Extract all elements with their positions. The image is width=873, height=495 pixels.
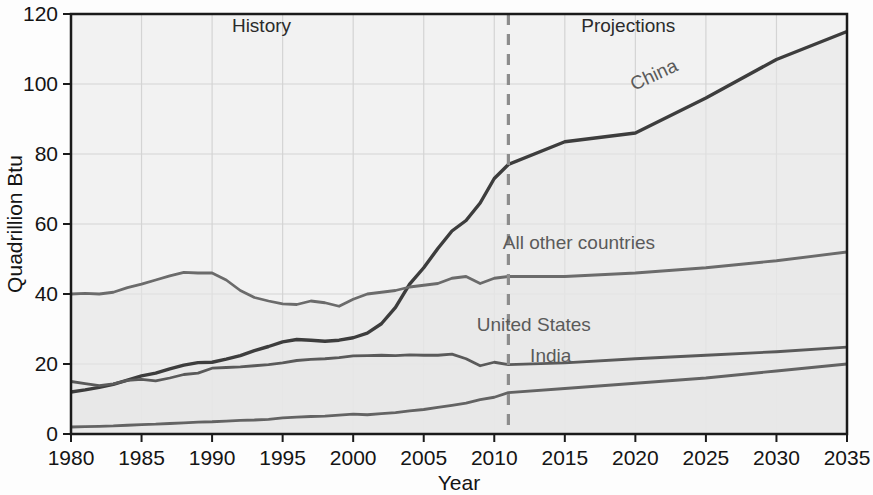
series-label-india: India	[530, 345, 572, 366]
y-tick-label: 20	[35, 352, 58, 375]
series-label-united-states: United States	[477, 314, 591, 335]
x-tick-label: 2035	[824, 446, 871, 469]
x-tick-label: 2015	[541, 446, 588, 469]
y-tick-label: 40	[35, 282, 58, 305]
x-axis-title: Year	[438, 471, 480, 494]
x-tick-label: 1980	[48, 446, 95, 469]
y-tick-label: 100	[23, 72, 58, 95]
chart-figure: 020406080100120 198019851990199520002005…	[0, 0, 873, 495]
series-label-all-other-countries: All other countries	[503, 232, 655, 253]
x-tick-label: 2020	[612, 446, 659, 469]
y-tick-label: 60	[35, 212, 58, 235]
y-tick-label: 120	[23, 2, 58, 25]
history-region-label: History	[232, 15, 292, 36]
energy-consumption-line-chart: 020406080100120 198019851990199520002005…	[0, 0, 873, 495]
projections-region-label: Projections	[581, 15, 675, 36]
x-tick-label: 2025	[683, 446, 730, 469]
x-tick-label: 1990	[189, 446, 236, 469]
y-tick-label: 80	[35, 142, 58, 165]
x-tick-label: 1985	[118, 446, 165, 469]
y-tick-label: 0	[46, 422, 58, 445]
x-tick-label: 2010	[471, 446, 518, 469]
y-axis-title: Quadrillion Btu	[3, 155, 26, 293]
x-tick-label: 2000	[330, 446, 377, 469]
x-tick-label: 2030	[753, 446, 800, 469]
x-tick-label: 2005	[400, 446, 447, 469]
x-tick-label: 1995	[259, 446, 306, 469]
